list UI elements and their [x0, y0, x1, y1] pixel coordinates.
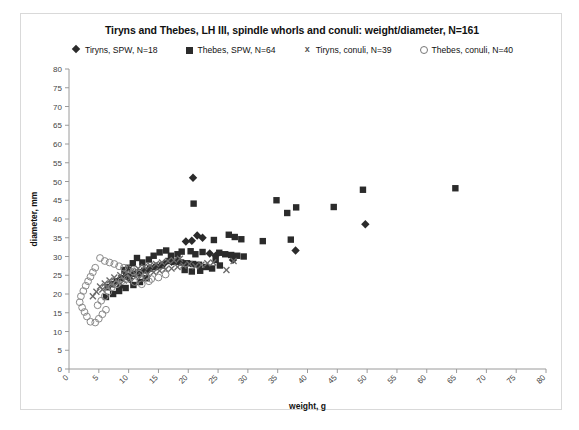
data-point-square: [260, 238, 266, 244]
scatter-plot: 0510152025303540455055606570758005101520…: [21, 14, 563, 411]
x-tick-label: 30: [237, 373, 250, 386]
data-point-square: [163, 247, 169, 253]
x-tick-label: 40: [296, 373, 309, 386]
y-tick-label: 0: [58, 365, 63, 374]
y-axis-title: diameter, mm: [29, 191, 39, 246]
x-tick-label: 0: [61, 373, 71, 383]
y-tick-label: 45: [53, 196, 62, 205]
data-point-square: [181, 267, 187, 273]
data-point-square: [288, 236, 294, 242]
data-point-square: [156, 249, 162, 255]
data-point-square: [228, 252, 234, 258]
x-tick-label: 60: [416, 373, 429, 386]
y-tick-label: 35: [53, 234, 62, 243]
data-point-x: [169, 266, 175, 272]
y-tick-label: 55: [53, 159, 62, 168]
data-point-square: [222, 251, 228, 257]
data-point-circle: [106, 259, 113, 266]
x-tick-label: 50: [356, 373, 369, 386]
y-tick-label: 25: [53, 271, 62, 280]
data-point-square: [293, 204, 299, 210]
series-1: [103, 185, 459, 300]
data-point-square: [452, 185, 458, 191]
data-point-x: [223, 267, 229, 273]
x-tick-label: 25: [207, 373, 220, 386]
data-point-square: [226, 232, 232, 238]
data-point-square: [187, 248, 193, 254]
data-point-circle: [87, 318, 94, 325]
x-tick-label: 70: [475, 373, 488, 386]
data-point-circle: [162, 271, 169, 278]
x-tick-label: 45: [326, 373, 339, 386]
data-point-square: [238, 236, 244, 242]
data-point-square: [232, 234, 238, 240]
x-tick-label: 20: [177, 373, 190, 386]
y-tick-label: 60: [53, 140, 62, 149]
data-point-square: [216, 250, 222, 256]
y-tick-label: 40: [53, 215, 62, 224]
y-tick-label: 5: [58, 346, 63, 355]
data-point-square: [189, 268, 195, 274]
y-tick-label: 15: [53, 309, 62, 318]
data-point-square: [116, 288, 122, 294]
data-point-square: [234, 253, 240, 259]
data-point-square: [284, 210, 290, 216]
data-point-circle: [155, 274, 162, 281]
y-tick-label: 80: [53, 65, 62, 74]
data-point-circle: [98, 297, 105, 304]
plot-svg: 0510152025303540455055606570758005101520…: [21, 14, 563, 411]
data-point-square: [360, 187, 366, 193]
data-point-circle: [94, 302, 101, 309]
data-point-diamond: [189, 174, 197, 182]
data-point-diamond: [361, 220, 369, 228]
x-tick-label: 65: [445, 373, 458, 386]
x-tick-label: 5: [91, 373, 101, 383]
data-point-x: [93, 289, 99, 295]
x-tick-label: 15: [147, 373, 160, 386]
x-tick-label: 10: [117, 373, 130, 386]
chart-frame: Tiryns and Thebes, LH III, spindle whorl…: [20, 13, 562, 410]
y-tick-label: 50: [53, 178, 62, 187]
data-point-square: [217, 262, 223, 268]
data-point-diamond: [188, 237, 196, 245]
x-tick-label: 75: [505, 373, 518, 386]
x-tick-label: 80: [535, 373, 548, 386]
y-tick-label: 10: [53, 328, 62, 337]
x-axis-title: weight, g: [288, 401, 326, 411]
data-point-square: [331, 204, 337, 210]
data-point-circle: [103, 306, 110, 313]
y-tick-label: 65: [53, 121, 62, 130]
data-point-square: [190, 200, 196, 206]
y-tick-label: 30: [53, 253, 62, 262]
x-tick-label: 55: [386, 373, 399, 386]
y-tick-label: 70: [53, 103, 62, 112]
data-point-square: [122, 285, 128, 291]
data-point-square: [273, 197, 279, 203]
data-point-x: [90, 293, 96, 299]
data-point-circle: [99, 311, 106, 318]
data-point-square: [146, 256, 152, 262]
data-point-diamond: [291, 246, 299, 254]
data-point-square: [199, 249, 205, 255]
data-point-square: [241, 253, 247, 259]
data-point-square: [211, 237, 217, 243]
x-tick-label: 35: [266, 373, 279, 386]
y-tick-label: 75: [53, 84, 62, 93]
y-tick-label: 20: [53, 290, 62, 299]
